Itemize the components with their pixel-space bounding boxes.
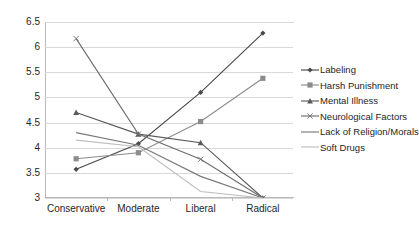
y-tick-label: 3.5 — [6, 168, 40, 178]
x-axis-tick — [107, 197, 108, 201]
x-axis: ConservativeModerateLiberalRadical — [45, 203, 294, 219]
y-tick-label: 6.5 — [6, 17, 40, 27]
x-axis-tick — [232, 197, 233, 201]
series-line-4 — [76, 133, 263, 198]
legend-label: Labeling — [320, 64, 356, 75]
series-line-0 — [76, 33, 263, 169]
series-line-5 — [76, 140, 263, 198]
legend-label: Lack of Religion/Morals — [320, 126, 419, 137]
legend-label: Harsh Punishment — [320, 80, 398, 91]
legend-marker-icon — [300, 95, 320, 107]
y-tick-label: 3 — [6, 193, 40, 203]
legend-marker-icon — [300, 110, 320, 122]
y-axis: 33.544.555.566.5 — [0, 22, 40, 198]
legend-label: Soft Drugs — [320, 142, 365, 153]
y-tick-label: 5.5 — [6, 67, 40, 77]
legend-marker-icon — [300, 126, 320, 138]
legend-marker-icon — [300, 64, 320, 76]
y-tick-label: 5 — [6, 92, 40, 102]
legend-item-neurological-factors[interactable]: Neurological Factors — [300, 109, 416, 125]
legend-item-lack-of-religion-morals[interactable]: Lack of Religion/Morals — [300, 124, 416, 140]
y-tick-label: 6 — [6, 42, 40, 52]
x-axis-tick — [170, 197, 171, 201]
legend-label: Neurological Factors — [320, 111, 407, 122]
y-tick-label: 4 — [6, 143, 40, 153]
series-lines — [45, 22, 294, 198]
y-tick-label: 4.5 — [6, 118, 40, 128]
legend-item-soft-drugs[interactable]: Soft Drugs — [300, 140, 416, 156]
x-tick-label: Liberal — [186, 203, 216, 215]
chart-legend: Labeling Harsh Punishment Mental Illness… — [300, 62, 416, 155]
legend-item-labeling[interactable]: Labeling — [300, 62, 416, 78]
legend-marker-icon — [300, 141, 320, 153]
x-tick-label: Conservative — [47, 203, 105, 215]
legend-marker-icon — [300, 79, 320, 91]
x-tick-label: Radical — [246, 203, 279, 215]
legend-label: Mental Illness — [320, 95, 378, 106]
x-tick-label: Moderate — [117, 203, 159, 215]
series-line-2 — [76, 113, 263, 198]
legend-item-mental-illness[interactable]: Mental Illness — [300, 93, 416, 109]
legend-item-harsh-punishment[interactable]: Harsh Punishment — [300, 78, 416, 94]
